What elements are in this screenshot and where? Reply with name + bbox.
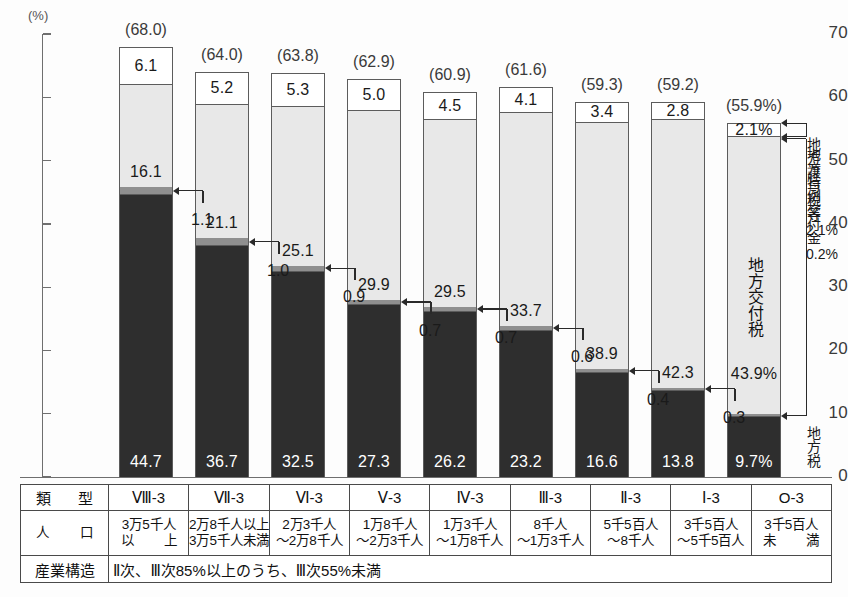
segment-value-alloc: 29.5 — [434, 283, 466, 301]
bar-segment-alloc: 21.1 — [195, 105, 249, 239]
x-axis-line — [20, 477, 832, 478]
bar-segment-alloc: 16.1 — [119, 85, 173, 187]
bar-segment-spec — [347, 300, 401, 304]
callout-arrow-icon — [173, 187, 179, 195]
y-tick-mark — [43, 223, 51, 224]
bar-segment-tran: 5.3 — [271, 73, 325, 107]
bar-group: 36.721.15.2(64.0) — [195, 0, 249, 477]
population-line: 3万5千人未満 — [189, 533, 269, 549]
bracket-horizontal — [787, 415, 806, 416]
segment-value-alloc: 33.7 — [510, 302, 542, 320]
y-tick-mark — [43, 287, 51, 288]
y-tick-mark — [43, 476, 51, 477]
bar-total-label: (59.3) — [581, 76, 623, 94]
segment-value-tax: 26.2 — [434, 453, 466, 471]
population-line: ～2万8千人 — [276, 533, 343, 549]
bar-group: 26.229.54.5(60.9) — [423, 0, 477, 477]
population-line: 3千5百人 — [764, 517, 818, 533]
callout-arrow-icon — [705, 385, 711, 393]
segment-value-tax: 13.8 — [662, 453, 694, 471]
bracket-horizontal — [787, 138, 806, 139]
population-line: 以 上 — [121, 533, 177, 549]
bar-segment-tran: 6.1 — [119, 47, 173, 86]
bracket-horizontal — [787, 123, 806, 124]
bar-segment-spec — [727, 414, 781, 415]
bar-segment-spec — [423, 307, 477, 311]
table-row-population: 人 口 3万5千人以 上2万8千人以上3万5千人未満2万3千人～2万8千人1万8… — [21, 510, 831, 555]
legend-label-tax: 地方税 — [806, 426, 820, 468]
bar-segment-tax: 27.3 — [347, 304, 401, 477]
population-line: 2万3千人 — [282, 517, 336, 533]
bar-segment-tran: 4.1 — [499, 87, 553, 113]
population-line: ～5千5百人 — [677, 533, 744, 549]
table-cell-population-7: 3千5百人～5千5百人 — [671, 511, 751, 555]
bar-segment-spec — [575, 369, 629, 372]
bracket-arrow-icon — [781, 119, 787, 127]
table-cell-population-0: 3万5千人以 上 — [109, 511, 189, 555]
table-cell-type-5: Ⅲ-3 — [511, 485, 591, 510]
population-line: 1万3千人 — [443, 517, 497, 533]
table-cell-population-8: 3千5百人未 満 — [752, 511, 831, 555]
y-tick-mark — [43, 160, 51, 161]
table-cell-type-2: Ⅵ-3 — [270, 485, 350, 510]
bracket-arrow-icon — [781, 135, 787, 143]
segment-value-tax: 16.6 — [586, 453, 618, 471]
legend-item-spec: 地方特例交付金0.2% — [806, 147, 848, 262]
segment-value-tax: 23.2 — [510, 453, 542, 471]
bar-segment-spec — [271, 266, 325, 272]
bar-segment-alloc: 25.1 — [271, 107, 325, 266]
segment-value-tran: 5.3 — [287, 81, 310, 99]
segment-value-tran: 2.1% — [735, 121, 772, 139]
table-cell-type-6: Ⅱ-3 — [591, 485, 671, 510]
bar-segment-alloc: 42.3 — [651, 120, 705, 388]
callout-arrow-icon — [477, 305, 483, 313]
inbar-alloc-name: 地方交付税 — [746, 257, 762, 337]
bar-segment-spec — [195, 238, 249, 244]
callout-arrow-icon — [325, 264, 331, 272]
legend-value-spec: 0.2% — [806, 246, 848, 262]
segment-value-alloc: 25.1 — [282, 242, 314, 260]
segment-value-tran: 4.5 — [439, 97, 462, 115]
segment-value-tran: 6.1 — [135, 57, 158, 75]
bar-group: 13.842.32.8(59.2) — [651, 0, 705, 477]
population-line: ～1万8千人 — [436, 533, 503, 549]
bar-segment-alloc: 38.9 — [575, 123, 629, 369]
bar-group: 27.329.95.0(62.9) — [347, 0, 401, 477]
row-label-industry: 産業構造 — [21, 556, 109, 582]
bracket-vertical — [806, 123, 807, 136]
bar-segment-alloc: 29.9 — [347, 111, 401, 300]
callout-arrow-icon — [249, 238, 255, 246]
callout-arrow-icon — [629, 367, 635, 375]
bar-total-label: (64.0) — [201, 46, 243, 64]
bar-segment-alloc: 29.5 — [423, 120, 477, 307]
y-tick-mark — [43, 413, 51, 414]
table-cell-population-4: 1万3千人～1万8千人 — [430, 511, 510, 555]
bracket-horizontal — [787, 136, 806, 137]
y-tick-mark — [43, 33, 51, 34]
bar-total-label: (68.0) — [125, 21, 167, 39]
segment-value-alloc: 29.9 — [358, 276, 390, 294]
category-table: 類 型 Ⅷ-3Ⅶ-3Ⅵ-3Ⅴ-3Ⅳ-3Ⅲ-3Ⅱ-3Ⅰ-3O-3 人 口 3万5千… — [20, 484, 832, 583]
bar-total-label: (60.9) — [429, 66, 471, 84]
bar-segment-tran: 2.8 — [651, 102, 705, 120]
population-line: 3千5百人 — [684, 517, 738, 533]
table-cell-type-8: O-3 — [752, 485, 831, 510]
y-axis-unit-label: (%) — [28, 8, 48, 23]
bar-segment-tax: 32.5 — [271, 271, 325, 477]
segment-value-tran: 5.0 — [363, 86, 386, 104]
legend-label-spec: 地方特例交付金 — [806, 147, 820, 245]
bar-group: 16.638.93.4(59.3) — [575, 0, 629, 477]
table-cell-type-3: Ⅴ-3 — [350, 485, 430, 510]
bar-segment-tax: 36.7 — [195, 245, 249, 477]
bar-segment-tran: 4.5 — [423, 92, 477, 120]
row-label-type: 類 型 — [21, 485, 109, 510]
segment-value-alloc: 21.1 — [206, 214, 238, 232]
bar-segment-tax: 26.2 — [423, 311, 477, 477]
population-line: ～2万3千人 — [356, 533, 423, 549]
table-cell-population-3: 1万8千人～2万3千人 — [350, 511, 430, 555]
legend-item-tax: 地方税 — [806, 426, 848, 468]
segment-value-alloc: 42.3 — [662, 364, 694, 382]
table-cell-population-5: 8千人～1万3千人 — [511, 511, 591, 555]
callout-arrow-icon — [401, 298, 407, 306]
population-line: 8千人 — [534, 517, 568, 533]
